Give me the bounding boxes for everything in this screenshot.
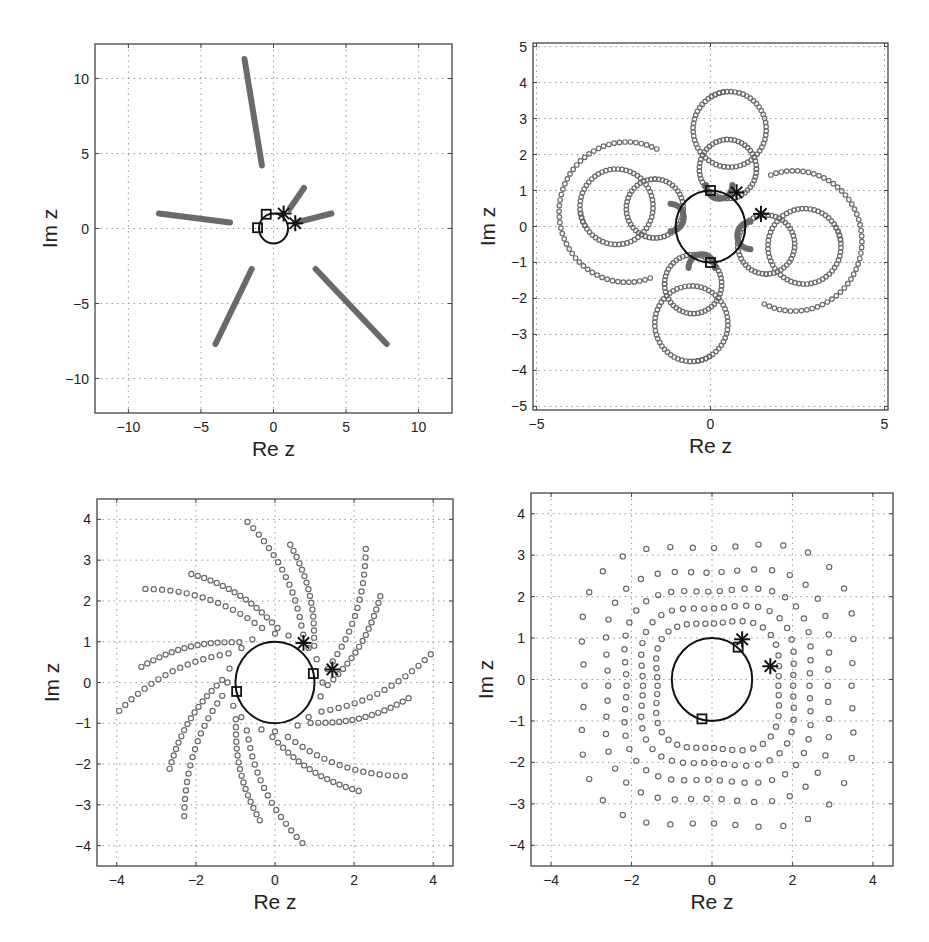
- trajectory-points: [603, 567, 831, 805]
- y-tick-label: 0: [517, 672, 525, 688]
- figure: −10−50510−10−50510Re zIm z −505−5−4−3−2−…: [0, 0, 929, 942]
- trajectory-points: [579, 542, 856, 829]
- plot-panel-bottom-right: −4−2024−4−3−2−101234Re zIm z: [0, 0, 929, 942]
- y-tick-label: −4: [509, 837, 525, 853]
- x-tick-label: −4: [543, 872, 559, 888]
- y-tick-label: 1: [517, 630, 525, 646]
- x-tick-label: −2: [624, 872, 640, 888]
- x-tick-label: 2: [789, 872, 797, 888]
- y-tick-label: 4: [517, 506, 525, 522]
- trajectory-points: [622, 586, 813, 785]
- star-marker-icon: [734, 631, 750, 647]
- y-tick-label: −2: [509, 754, 525, 770]
- trajectory-points: [639, 603, 797, 768]
- x-axis-label: Re z: [690, 890, 733, 913]
- y-tick-label: 2: [517, 589, 525, 605]
- x-tick-label: 0: [708, 872, 716, 888]
- x-tick-label: 4: [869, 872, 877, 888]
- y-tick-label: 3: [517, 547, 525, 563]
- y-tick-label: −3: [509, 796, 525, 812]
- plot-area: [579, 542, 856, 829]
- y-axis-label: Im z: [474, 660, 497, 700]
- star-marker-icon: [762, 658, 778, 674]
- y-tick-label: −1: [509, 713, 525, 729]
